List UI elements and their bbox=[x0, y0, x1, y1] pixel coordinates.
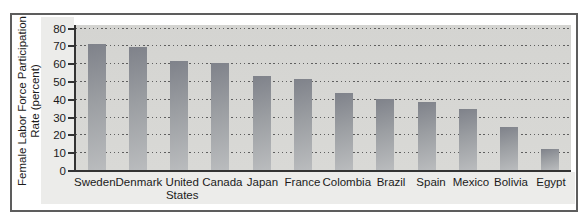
x-tick-label-line: Colombia bbox=[322, 176, 371, 189]
bar-denmark bbox=[129, 47, 147, 170]
x-axis-labels: SwedenDenmarkUnitedStatesCanadaJapanFran… bbox=[74, 176, 571, 201]
y-tick-label-60: 60 bbox=[42, 58, 66, 70]
bar-bolivia bbox=[500, 127, 518, 170]
bar-united-states bbox=[170, 61, 188, 170]
bar-sweden bbox=[88, 44, 106, 170]
x-tick-label-brazil: Brazil bbox=[371, 176, 411, 201]
x-tick-label-egypt: Egypt bbox=[531, 176, 571, 201]
y-tick-label-50: 50 bbox=[42, 76, 66, 88]
bar-column-denmark bbox=[117, 25, 158, 170]
y-tick-label-10: 10 bbox=[42, 147, 66, 159]
bar-column-mexico bbox=[447, 25, 488, 170]
bar-column-egypt bbox=[530, 25, 571, 170]
y-axis-label: Female Labor Force Participation Rate (p… bbox=[16, 16, 42, 186]
bar-column-colombia bbox=[324, 25, 365, 170]
y-axis-label-line-2: Rate (percent) bbox=[29, 16, 42, 186]
bar-mexico bbox=[459, 109, 477, 170]
x-tick-label-line: Japan bbox=[243, 176, 283, 189]
bar-brazil bbox=[376, 99, 394, 170]
x-tick-label-united-states: UnitedStates bbox=[162, 176, 202, 201]
x-tick-label-japan: Japan bbox=[243, 176, 283, 201]
bar-egypt bbox=[541, 149, 559, 170]
x-tick-label-mexico: Mexico bbox=[451, 176, 491, 201]
y-tick-label-30: 30 bbox=[42, 112, 66, 124]
x-tick-label-line: Spain bbox=[411, 176, 451, 189]
x-tick-label-line: Mexico bbox=[451, 176, 491, 189]
bar-column-sweden bbox=[76, 25, 117, 170]
x-tick-label-line: Denmark bbox=[116, 176, 163, 189]
x-tick-label-line: France bbox=[282, 176, 322, 189]
y-tick-label-0: 0 bbox=[42, 165, 66, 177]
x-tick-label-denmark: Denmark bbox=[116, 176, 163, 201]
x-tick-label-line: Sweden bbox=[74, 176, 116, 189]
x-tick-label-sweden: Sweden bbox=[74, 176, 116, 201]
x-tick-label-colombia: Colombia bbox=[322, 176, 371, 201]
bar-column-spain bbox=[406, 25, 447, 170]
x-tick-label-line: United bbox=[162, 176, 202, 189]
y-tick-label-80: 80 bbox=[42, 23, 66, 35]
y-tick-label-40: 40 bbox=[42, 94, 66, 106]
x-tick-label-bolivia: Bolivia bbox=[491, 176, 531, 201]
y-tick-label-70: 70 bbox=[42, 40, 66, 52]
x-tick-label-canada: Canada bbox=[202, 176, 242, 201]
figure-canvas: Female Labor Force Participation Rate (p… bbox=[0, 0, 588, 224]
bar-column-united-states bbox=[159, 25, 200, 170]
bar-canada bbox=[211, 63, 229, 170]
x-tick-label-line: Egypt bbox=[531, 176, 571, 189]
bar-spain bbox=[418, 102, 436, 170]
bar-column-france bbox=[282, 25, 323, 170]
bar-france bbox=[294, 79, 312, 170]
x-tick-label-line: Brazil bbox=[371, 176, 411, 189]
x-tick-label-spain: Spain bbox=[411, 176, 451, 201]
bar-column-bolivia bbox=[489, 25, 530, 170]
bar-colombia bbox=[335, 93, 353, 170]
x-tick-label-france: France bbox=[282, 176, 322, 201]
bar-column-brazil bbox=[365, 25, 406, 170]
x-tick-label-line: States bbox=[162, 189, 202, 202]
bar-column-canada bbox=[200, 25, 241, 170]
plot-area bbox=[74, 25, 571, 172]
bar-series bbox=[76, 25, 571, 170]
x-tick-label-line: Bolivia bbox=[491, 176, 531, 189]
y-axis-label-line-1: Female Labor Force Participation bbox=[16, 16, 29, 186]
x-tick-label-line: Canada bbox=[202, 176, 242, 189]
bar-japan bbox=[253, 76, 271, 170]
bar-column-japan bbox=[241, 25, 282, 170]
y-tick-label-20: 20 bbox=[42, 129, 66, 141]
